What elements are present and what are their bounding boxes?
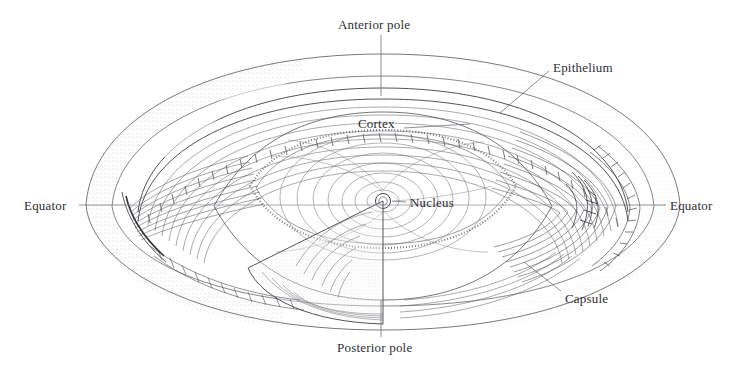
label-cortex: Cortex	[358, 117, 395, 130]
lens-illustration	[0, 0, 734, 369]
equator-right-fiber-bundle	[492, 132, 640, 282]
capsule-stipple-right	[466, 59, 680, 325]
lens-diagram-figure: Anterior pole Epithelium Cortex Equator …	[0, 0, 734, 369]
leader-nucleus	[392, 201, 406, 202]
lens-body	[86, 54, 680, 330]
label-epithelium: Epithelium	[553, 61, 613, 74]
label-anterior-pole: Anterior pole	[338, 18, 410, 31]
label-equator-right: Equator	[670, 199, 713, 212]
label-capsule: Capsule	[565, 292, 608, 305]
label-posterior-pole: Posterior pole	[337, 341, 412, 354]
label-equator-left: Equator	[24, 199, 67, 212]
leader-capsule	[524, 262, 561, 291]
leader-cortex	[404, 124, 470, 128]
label-nucleus: Nucleus	[410, 196, 454, 209]
